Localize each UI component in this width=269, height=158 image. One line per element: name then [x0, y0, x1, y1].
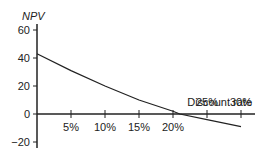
x-tick-label: 5% — [63, 121, 79, 133]
y-tick-label: 40 — [18, 52, 30, 64]
y-tick-label: 60 — [18, 24, 30, 36]
x-tick-label: 20% — [162, 121, 184, 133]
y-ticks: 6040200−20 — [11, 24, 37, 148]
y-axis-label: NPV — [22, 10, 46, 22]
x-tick-label: 10% — [94, 121, 116, 133]
y-tick-label: 20 — [18, 80, 30, 92]
y-tick-label: 0 — [24, 108, 30, 120]
y-tick-label: −20 — [11, 136, 30, 148]
npv-chart: 6040200−20 5%10%15%20%25%30% NPV Discoun… — [0, 0, 269, 158]
x-tick-label: 15% — [128, 121, 150, 133]
x-axis-label: Discount rate — [187, 96, 252, 108]
